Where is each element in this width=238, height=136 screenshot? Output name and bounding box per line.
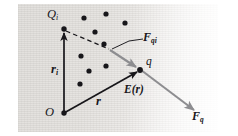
label-q-glyph: q <box>146 55 152 67</box>
charge-dot-6 <box>78 53 83 58</box>
label-Fq-glyph: F <box>192 109 200 123</box>
label-origin-O: O <box>45 106 54 119</box>
charge-dot-4 <box>92 29 97 34</box>
label-O-glyph: O <box>45 105 54 119</box>
charge-distribution-dots <box>77 11 127 86</box>
dashed-separation-line <box>66 31 109 49</box>
charge-dot-8 <box>86 68 91 73</box>
Fqi-leader-line <box>112 39 143 49</box>
label-force-F-q: Fq <box>192 110 204 124</box>
physics-figure: Qi ri r q E(r) Fqi Fq O <box>0 0 238 136</box>
label-Fq-subscript: q <box>200 115 204 124</box>
label-E-glyph: E(r) <box>124 83 144 95</box>
label-field-E-of-r: E(r) <box>124 84 144 96</box>
label-source-charge-Qi: Qi <box>47 8 58 22</box>
label-force-F-qi: Fqi <box>143 31 157 45</box>
label-vector-r-i: ri <box>51 63 58 77</box>
charge-dot-7 <box>103 63 108 68</box>
label-vector-r: r <box>96 95 101 108</box>
label-Fqi-subscript: qi <box>151 36 157 45</box>
label-r-glyph: r <box>96 94 101 108</box>
label-Q-subscript: i <box>56 13 58 22</box>
charge-q-dot <box>137 67 143 73</box>
charge-Qi-dot <box>61 26 66 31</box>
origin-dot <box>61 110 66 115</box>
charge-dot-2 <box>103 11 108 16</box>
label-ri-subscript: i <box>56 68 58 77</box>
label-Q-glyph: Q <box>47 7 56 21</box>
charge-dot-9 <box>77 81 82 86</box>
charge-dot-3 <box>122 20 127 25</box>
vector-F-qi-shaft <box>110 50 136 67</box>
charge-dot-1 <box>81 15 86 20</box>
label-Fqi-glyph: F <box>143 30 151 44</box>
label-test-charge-q: q <box>146 56 152 68</box>
vector-F-q-shaft <box>141 70 194 110</box>
